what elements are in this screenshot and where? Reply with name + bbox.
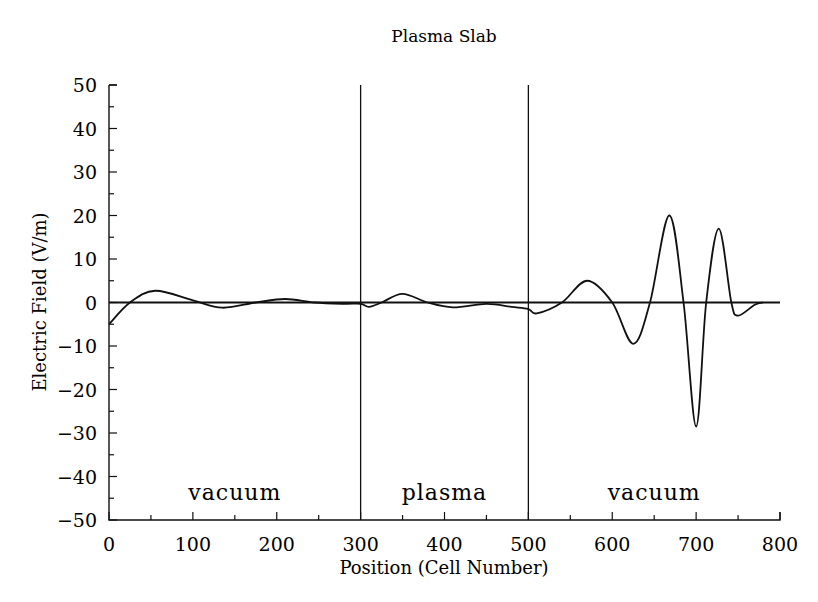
x-tick-label: 800 [762, 533, 798, 555]
region-label-plasma: plasma [402, 480, 488, 505]
region-label-vacuum: vacuum [187, 480, 281, 505]
x-axis-label: Position (Cell Number) [339, 557, 548, 578]
x-tick-label: 700 [678, 533, 714, 555]
x-tick-label: 600 [594, 533, 630, 555]
chart-title: Plasma Slab [391, 26, 497, 46]
y-tick-label: 50 [73, 74, 97, 96]
x-tick-label: 0 [103, 533, 115, 555]
y-tick-label: 20 [73, 205, 97, 227]
x-tick-label: 500 [510, 533, 546, 555]
region-label-vacuum: vacuum [607, 480, 701, 505]
y-tick-label: −50 [57, 509, 97, 531]
y-tick-label: 0 [85, 292, 97, 314]
y-tick-label: −20 [57, 379, 97, 401]
y-axis-label: Electric Field (V/m) [29, 212, 50, 391]
chart: Plasma Slab Electric Field (V/m) Positio… [0, 0, 818, 602]
y-tick-label: 40 [73, 118, 97, 140]
y-tick-label: −40 [57, 466, 97, 488]
y-tick-label: 30 [73, 161, 97, 183]
y-tick-labels: 50403020100−10−20−30−40−50 [57, 74, 97, 531]
y-tick-label: −10 [57, 335, 97, 357]
region-labels: vacuumplasmavacuum [187, 480, 700, 505]
x-tick-labels: 0100200300400500600700800 [103, 533, 798, 555]
x-tick-label: 300 [342, 533, 378, 555]
x-tick-label: 100 [175, 533, 211, 555]
electric-field-curve [109, 216, 763, 427]
y-tick-label: 10 [73, 248, 97, 270]
x-tick-label: 400 [426, 533, 462, 555]
y-tick-label: −30 [57, 422, 97, 444]
x-tick-label: 200 [259, 533, 295, 555]
svg-text:Electric Field (V/m): Electric Field (V/m) [29, 212, 50, 391]
